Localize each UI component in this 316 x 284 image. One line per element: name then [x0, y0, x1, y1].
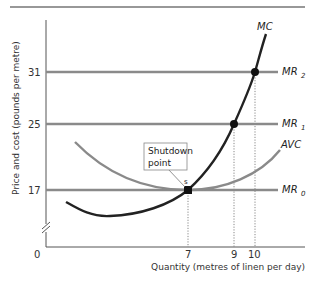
y-tick-17: 17: [28, 185, 41, 196]
point-q9: [230, 120, 238, 128]
mr2-label: MR: [282, 66, 298, 77]
shutdown-label-line2: point: [148, 158, 171, 168]
s-label: s: [184, 178, 188, 186]
shutdown-leader-line: [168, 169, 185, 187]
x-tick-7: 7: [185, 249, 191, 260]
y-axis-title: Price and cost (pounds per metre): [11, 41, 21, 195]
x-tick-0: 0: [34, 249, 40, 260]
mr0-label: MR: [282, 184, 298, 195]
mr1-label: MR: [282, 118, 298, 129]
y-tick-25: 25: [28, 119, 41, 130]
point-q10: [251, 68, 259, 76]
x-axis-title: Quantity (metres of linen per day): [151, 262, 305, 272]
shutdown-point-marker: [184, 186, 192, 194]
avc-label: AVC: [280, 139, 301, 150]
chart: Shutdown point s MC MR 2 MR 1 AVC MR 0 3…: [0, 0, 316, 284]
mc-label: MC: [257, 21, 273, 32]
x-tick-9: 9: [231, 249, 237, 260]
mr0-sub: 0: [301, 190, 306, 198]
x-tick-10: 10: [248, 249, 261, 260]
shutdown-label-line1: Shutdown: [148, 146, 193, 156]
mr1-sub: 1: [301, 124, 305, 132]
y-tick-31: 31: [28, 67, 41, 78]
mr2-sub: 2: [301, 72, 306, 80]
